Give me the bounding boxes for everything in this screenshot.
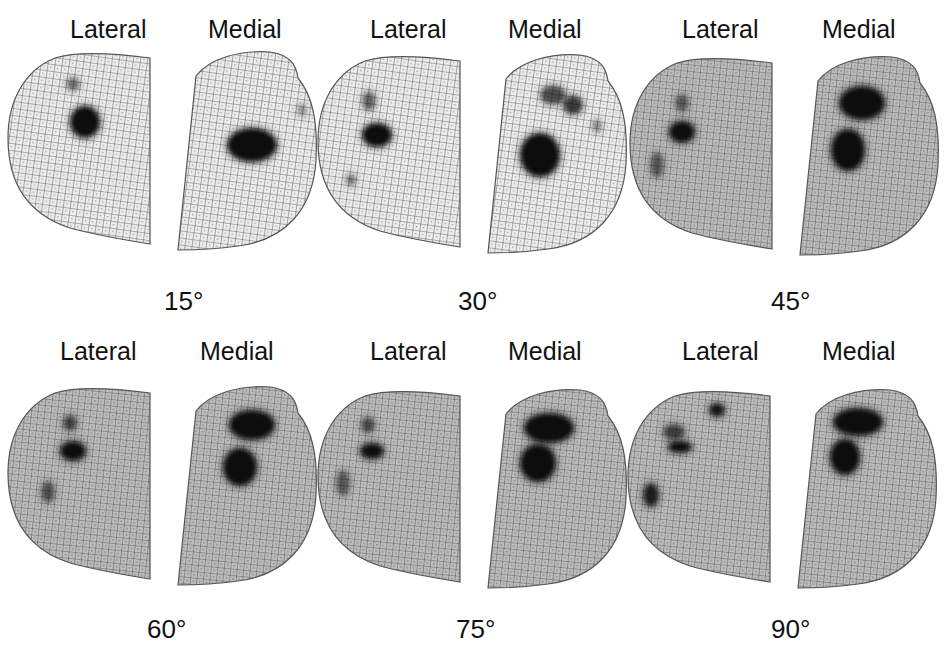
contact-patch — [644, 484, 658, 506]
lateral-plateau-mesh — [318, 391, 460, 582]
panel-90deg: LateralMedial90° — [628, 337, 936, 644]
flexion-angle-label: 45° — [771, 286, 810, 316]
contact-patch — [593, 120, 601, 132]
flexion-angle-label: 60° — [147, 614, 186, 644]
contact-patch — [230, 411, 274, 439]
contact-patch — [362, 418, 374, 432]
lateral-plateau-mesh — [630, 58, 772, 249]
contact-patch — [298, 104, 306, 116]
medial-label: Medial — [508, 15, 582, 43]
lateral-plateau-mesh — [318, 56, 460, 247]
lateral-label: Lateral — [682, 337, 758, 365]
contact-patch — [564, 96, 582, 114]
contact-patch — [651, 153, 663, 177]
panel-45deg: LateralMedial45° — [630, 15, 938, 316]
contact-patch — [71, 107, 99, 137]
panel-60deg: LateralMedial60° — [8, 337, 316, 644]
lateral-label: Lateral — [370, 15, 446, 43]
flexion-angle-label: 75° — [456, 614, 495, 644]
lateral-plateau-mesh — [628, 391, 770, 582]
contact-patch — [337, 471, 349, 495]
contact-patch — [363, 124, 391, 146]
contact-patch — [224, 449, 256, 485]
contact-patch — [521, 445, 555, 481]
panel-75deg: LateralMedial75° — [318, 337, 626, 644]
contact-patch — [228, 129, 276, 161]
lateral-plateau-mesh — [8, 53, 150, 244]
contact-patch — [525, 414, 573, 442]
contact-patch — [361, 444, 383, 458]
contact-patch — [669, 442, 691, 452]
contact-patch — [67, 78, 79, 90]
contact-patch — [521, 134, 559, 176]
medial-plateau-mesh — [178, 52, 316, 250]
medial-label: Medial — [822, 15, 896, 43]
panel-30deg: LateralMedial30° — [318, 15, 626, 316]
contact-patch — [840, 87, 884, 119]
medial-plateau-mesh — [488, 55, 626, 253]
medial-label: Medial — [508, 337, 582, 365]
lateral-label: Lateral — [370, 337, 446, 365]
contact-patch — [347, 175, 355, 185]
lateral-plateau-mesh — [8, 388, 150, 579]
medial-label: Medial — [208, 15, 282, 43]
contact-patch — [670, 122, 694, 142]
medial-label: Medial — [822, 337, 896, 365]
contact-pressure-figure: LateralMedial15°LateralMedial30°LateralM… — [0, 0, 952, 652]
lateral-label: Lateral — [70, 15, 146, 43]
contact-patch — [676, 95, 688, 111]
panel-15deg: LateralMedial15° — [8, 15, 316, 316]
medial-plateau-mesh — [488, 390, 626, 588]
contact-patch — [42, 482, 54, 502]
contact-patch — [541, 86, 565, 104]
medial-label: Medial — [200, 337, 274, 365]
flexion-angle-label: 15° — [164, 286, 203, 316]
contact-patch — [363, 92, 375, 110]
contact-patch — [831, 440, 859, 474]
flexion-angle-label: 90° — [771, 614, 810, 644]
flexion-angle-label: 30° — [458, 286, 497, 316]
medial-plateau-mesh — [178, 387, 316, 585]
contact-patch — [664, 425, 684, 439]
medial-plateau-mesh — [800, 57, 938, 255]
contact-patch — [710, 404, 724, 416]
medial-plateau-mesh — [798, 390, 936, 588]
lateral-label: Lateral — [60, 337, 136, 365]
contact-patch — [832, 130, 864, 170]
contact-patch — [834, 409, 882, 435]
contact-patch — [61, 442, 85, 460]
lateral-label: Lateral — [682, 15, 758, 43]
contact-patch — [64, 416, 76, 430]
